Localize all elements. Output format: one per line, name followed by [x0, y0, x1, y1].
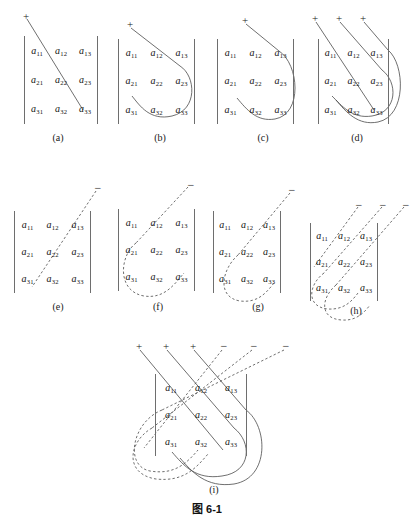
determinant-bar-right	[246, 374, 247, 456]
matrix-cell: a13	[176, 218, 188, 228]
determinant-bar-right	[293, 39, 294, 124]
matrix-cell: a31	[126, 105, 138, 115]
matrix-cell: a23	[360, 257, 372, 267]
matrix-cell: a33	[275, 105, 287, 115]
sign-minus: −	[95, 182, 102, 194]
matrix-cell: a33	[79, 104, 91, 114]
panel-g: − a11 a12 a13 a21 a22 a23 a31 a32 a33 (g…	[206, 175, 310, 325]
determinant-bar-right	[97, 36, 98, 124]
matrix-cell: a32	[55, 104, 67, 114]
sign-plus: +	[312, 13, 318, 24]
panel-f: − a11 a12 a13 a21 a22 a23 a31 a32 a33 (f…	[106, 175, 210, 325]
sign-minus: −	[251, 340, 258, 352]
panel-i: + + + − − − a11 a12 a13 a21 a22 a23 a31 …	[100, 332, 328, 497]
matrix-cell: a11	[31, 46, 43, 56]
panel-c: + a11 a12 a13 a21 a22 a23 a31 a32 a33 (c…	[213, 6, 313, 151]
matrix-cell: a33	[72, 274, 84, 284]
matrix-cell: a11	[22, 220, 34, 230]
matrix-cells: a11 a12 a13 a21 a22 a23 a31 a32 a33	[119, 39, 194, 124]
matrix-cell: a12	[55, 46, 67, 56]
matrix-cell: a11	[165, 383, 177, 393]
matrix-cell: a22	[47, 247, 59, 257]
matrix-cell: a33	[371, 105, 383, 115]
matrix-cell: a33	[176, 272, 188, 282]
matrix-cell: a32	[47, 274, 59, 284]
matrix-cell: a11	[219, 220, 231, 230]
matrix-cells: a11 a12 a13 a21 a22 a23 a31 a32 a33	[156, 374, 246, 456]
determinant-matrix: a11 a12 a13 a21 a22 a23 a31 a32 a33	[24, 36, 98, 124]
matrix-cell: a31	[165, 437, 177, 447]
matrix-cell: a12	[250, 48, 262, 58]
sign-minus: −	[289, 184, 296, 196]
matrix-cell: a22	[250, 76, 262, 86]
panel-a: + a11 a12 a13 a21 a22 a23 a31 a32 a33 (a…	[8, 6, 108, 151]
matrix-cell: a32	[338, 283, 350, 293]
matrix-cells: a11 a12 a13 a21 a22 a23 a31 a32 a33	[119, 209, 194, 291]
matrix-cell: a21	[325, 76, 337, 86]
panel-e: − a11 a12 a13 a21 a22 a23 a31 a32 a33 (e…	[8, 175, 108, 320]
matrix-cell: a22	[55, 75, 67, 85]
matrix-cells: a11 a12 a13 a21 a22 a23 a31 a32 a33	[311, 223, 377, 301]
matrix-cells: a11 a12 a13 a21 a22 a23 a31 a32 a33	[25, 36, 97, 124]
matrix-cell: a33	[225, 437, 237, 447]
matrix-cells: a11 a12 a13 a21 a22 a23 a31 a32 a33	[15, 211, 90, 293]
sign-minus: −	[356, 199, 363, 211]
matrix-cell: a11	[325, 48, 337, 58]
determinant-matrix: a11 a12 a13 a21 a22 a23 a31 a32 a33	[118, 209, 195, 291]
matrix-cell: a21	[316, 257, 328, 267]
matrix-cell: a12	[348, 48, 360, 58]
matrix-cell: a21	[22, 247, 34, 257]
matrix-cell: a22	[195, 410, 207, 420]
matrix-cell: a31	[22, 274, 34, 284]
matrix-cell: a23	[176, 245, 188, 255]
matrix-cell: a13	[371, 48, 383, 58]
matrix-cell: a32	[250, 105, 262, 115]
matrix-cell: a31	[316, 283, 328, 293]
matrix-cell: a21	[225, 76, 237, 86]
matrix-cell: a23	[225, 410, 237, 420]
panel-label: (e)	[8, 301, 108, 312]
matrix-cell: a12	[195, 383, 207, 393]
determinant-bar-right	[388, 39, 389, 124]
panel-label: (h)	[300, 305, 412, 316]
matrix-cell: a23	[79, 75, 91, 85]
panel-d: + + + a11 a12 a13 a21 a22 a23 a31 a32 a3…	[304, 6, 410, 151]
determinant-matrix: a11 a12 a13 a21 a22 a23 a31 a32 a33	[217, 39, 294, 124]
matrix-cell: a13	[360, 231, 372, 241]
matrix-cell: a11	[316, 231, 328, 241]
matrix-cell: a22	[151, 245, 163, 255]
sign-plus: +	[336, 13, 342, 24]
matrix-cell: a33	[263, 274, 275, 284]
sign-plus: +	[242, 15, 248, 26]
matrix-cell: a11	[225, 48, 237, 58]
matrix-cell: a12	[151, 48, 163, 58]
matrix-cell: a23	[176, 76, 188, 86]
panel-label: (c)	[213, 132, 313, 143]
matrix-cell: a31	[126, 272, 138, 282]
matrix-cell: a23	[275, 76, 287, 86]
determinant-matrix: a11 a12 a13 a21 a22 a23 a31 a32 a33	[318, 39, 389, 124]
sign-plus: +	[190, 341, 196, 352]
matrix-cell: a22	[348, 76, 360, 86]
sign-minus: −	[283, 340, 290, 352]
matrix-cell: a33	[176, 105, 188, 115]
panel-label: (b)	[110, 132, 210, 143]
panel-h: − − − a11 a12 a13 a21 a22 a23 a31 a32 a3…	[300, 175, 412, 330]
matrix-cell: a13	[263, 220, 275, 230]
determinant-bar-right	[377, 223, 378, 301]
figure-caption: 图 6-1	[0, 500, 414, 516]
matrix-cell: a13	[275, 48, 287, 58]
determinant-bar-right	[194, 209, 195, 291]
matrix-cell: a21	[126, 76, 138, 86]
sign-plus: +	[136, 341, 142, 352]
matrix-cell: a23	[371, 76, 383, 86]
sign-plus: +	[127, 19, 133, 30]
matrix-cell: a21	[126, 245, 138, 255]
panel-label: (a)	[8, 132, 108, 143]
matrix-cell: a13	[72, 220, 84, 230]
sign-plus: +	[163, 341, 169, 352]
sign-plus: +	[23, 11, 29, 22]
panel-label: (g)	[206, 301, 310, 312]
panel-label: (f)	[106, 301, 210, 312]
matrix-cell: a12	[151, 218, 163, 228]
